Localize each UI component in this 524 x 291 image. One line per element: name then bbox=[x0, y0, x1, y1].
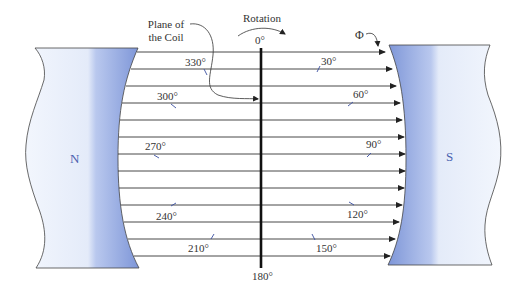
angle-label-210: 210° bbox=[188, 243, 209, 254]
generator-diagram: Plane of the Coil Rotation Φ N S 0° 330°… bbox=[0, 0, 524, 291]
angle-label-300: 300° bbox=[157, 91, 178, 102]
angle-label-0: 0° bbox=[255, 35, 265, 46]
angle-label-30: 30° bbox=[321, 56, 336, 67]
north-pole-label: N bbox=[70, 152, 79, 165]
flux-pointer bbox=[366, 33, 378, 46]
angle-label-90: 90° bbox=[366, 139, 381, 150]
plane-of-coil-label: Plane of the Coil bbox=[140, 18, 192, 44]
plane-of-coil-line2: the Coil bbox=[140, 31, 192, 44]
rotation-label: Rotation bbox=[243, 13, 281, 24]
angle-label-240: 240° bbox=[156, 211, 177, 222]
angle-label-150: 150° bbox=[316, 243, 337, 254]
angle-ticks bbox=[154, 66, 371, 240]
angle-label-120: 120° bbox=[347, 209, 368, 220]
south-magnet bbox=[388, 45, 501, 265]
angle-label-270: 270° bbox=[145, 141, 166, 152]
south-pole-label: S bbox=[446, 150, 453, 163]
angle-label-60: 60° bbox=[353, 89, 368, 100]
plane-of-coil-line1: Plane of bbox=[140, 18, 192, 31]
flux-label: Φ bbox=[355, 29, 364, 41]
north-magnet bbox=[26, 48, 139, 268]
angle-label-180: 180° bbox=[252, 271, 273, 282]
angle-label-330: 330° bbox=[185, 57, 206, 68]
